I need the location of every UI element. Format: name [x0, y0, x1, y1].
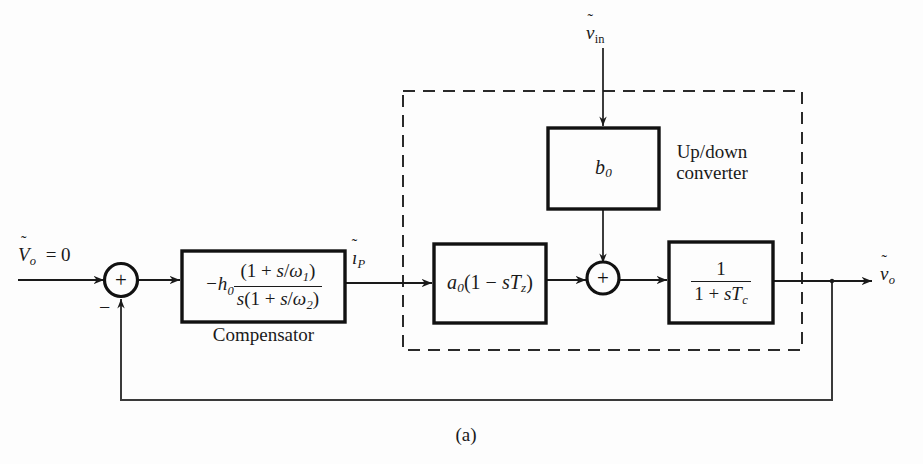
pole-transfer-function: 1 1 + sTc [669, 242, 773, 323]
up-down-converter-label-line1: Up/down [677, 141, 748, 162]
error-summer-plus-sign: + [107, 266, 135, 294]
figure-caption: (a) [416, 424, 516, 445]
compensator-output-label: ˜ıP [352, 247, 365, 271]
up-down-converter-label-line2: converter [676, 162, 748, 183]
reference-input-label: ˜Vo = 0 [18, 244, 71, 268]
feedback-tap-point [830, 279, 834, 283]
a0-zero-transfer-function: a0(1 − sTz) [434, 244, 546, 323]
error-summer-minus-sign: − [99, 296, 110, 318]
block-diagram-svg [0, 0, 923, 464]
compensator-transfer-function: −h0(1 + s/ω1)s(1 + s/ω2) [182, 251, 345, 322]
converter-summer-plus-sign: + [589, 264, 617, 292]
b0-gain-transfer-function: b0 [548, 128, 659, 209]
converter-input-label: ˜vin [586, 22, 604, 46]
output-signal-label: ˜vo [880, 263, 895, 287]
figure-canvas: + + − ˜Vo = 0 ˜ıP ˜vin ˜vo −h0(1 + s/ω1)… [0, 0, 923, 464]
compensator-caption: Compensator [182, 324, 345, 345]
up-down-converter-label: Up/down converter [652, 141, 772, 184]
